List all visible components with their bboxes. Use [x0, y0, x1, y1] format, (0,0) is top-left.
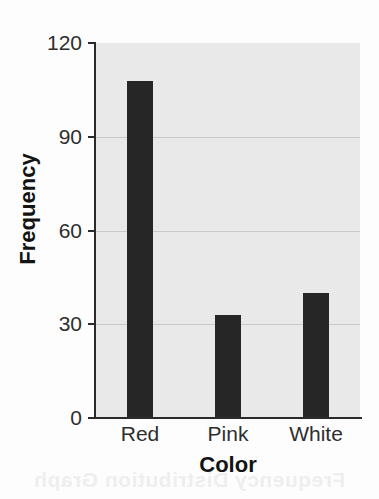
y-axis-tick-mark: [88, 42, 96, 44]
y-axis-tick-mark: [88, 230, 96, 232]
y-axis-tick-label: 30: [32, 313, 82, 334]
x-axis-category-label: White: [272, 423, 360, 444]
y-axis-tick-label: 0: [32, 407, 82, 428]
x-axis-category-label: Pink: [184, 423, 272, 444]
x-axis-category-label: Red: [96, 423, 184, 444]
bar-white: [303, 293, 329, 418]
y-axis-title: Frequency: [15, 119, 41, 299]
bar-chart-figure: 0306090120 Frequency Color Frequency Dis…: [0, 0, 379, 499]
bar-pink: [215, 315, 241, 418]
y-axis-tick-mark: [88, 136, 96, 138]
x-axis-title: Color: [96, 452, 360, 478]
plot-area: [96, 43, 360, 418]
y-axis-tick-label: 120: [32, 32, 82, 53]
y-axis-tick-mark: [88, 323, 96, 325]
bar-red: [127, 81, 153, 419]
y-axis-tick-mark: [88, 417, 96, 419]
x-axis-line: [94, 417, 362, 419]
